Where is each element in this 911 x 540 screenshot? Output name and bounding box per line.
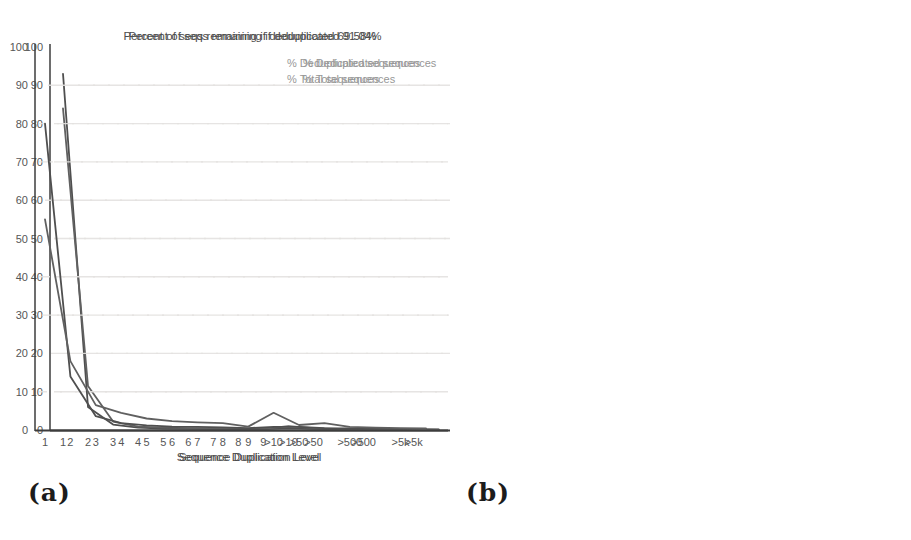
legend-entry-total: % Total sequences (287, 73, 380, 85)
y-tick-label: 80 (16, 118, 28, 130)
y-tick-label: 60 (16, 194, 28, 206)
y-tick-label: 90 (16, 79, 28, 91)
x-tick-label: >5k (392, 436, 411, 448)
x-tick-label: 4 (118, 436, 124, 448)
x-tick-label: 6 (169, 436, 175, 448)
y-tick-label: 10 (16, 386, 28, 398)
y-tick-label: 100 (10, 41, 28, 53)
x-tick-label: 8 (220, 436, 226, 448)
x-tick-label: 9 (245, 436, 251, 448)
fastqc-duplication-figure: Percent of seqs remaining if deduplicate… (0, 0, 911, 540)
x-tick-label: 7 (194, 436, 200, 448)
panel-caption-a: (a) (28, 478, 71, 507)
x-tick-label: >500 (337, 436, 362, 448)
x-tick-label: 2 (67, 436, 73, 448)
x-axis-label: Sequence Duplication Level (179, 451, 322, 463)
panel-caption-b: (b) (466, 478, 510, 507)
x-tick-label: >50 (290, 436, 309, 448)
duplication-chart-b: Percent of seqs remaining if deduplicate… (0, 0, 456, 470)
y-tick-label: 0 (22, 424, 28, 436)
y-tick-label: 20 (16, 347, 28, 359)
x-tick-label: 1 (42, 436, 48, 448)
x-tick-label: >10 (264, 436, 283, 448)
y-tick-label: 40 (16, 271, 28, 283)
x-tick-label: 5 (144, 436, 150, 448)
x-tick-label: 3 (93, 436, 99, 448)
series-line-total (45, 219, 426, 428)
y-tick-label: 70 (16, 156, 28, 168)
legend-entry-deduplicated: % Deduplicated sequences (287, 57, 421, 69)
y-tick-label: 30 (16, 309, 28, 321)
y-tick-label: 50 (16, 233, 28, 245)
chart-title: Percent of seqs remaining if deduplicate… (123, 30, 376, 42)
